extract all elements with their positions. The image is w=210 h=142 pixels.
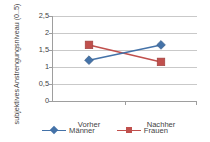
y-tick-label-2: 2 bbox=[45, 29, 49, 37]
square-marker-icon bbox=[126, 127, 132, 133]
y-tick-label-0: 0 bbox=[45, 97, 49, 105]
y-tick-label-0.5: 0,5 bbox=[39, 80, 49, 88]
series-layer bbox=[53, 16, 197, 101]
y-tick-label-1: 1 bbox=[45, 63, 49, 71]
legend-label-maenner: Männer bbox=[69, 126, 95, 135]
x-tick-mark-mid bbox=[125, 101, 126, 105]
plot-area: 2,5 2 1,5 1 0,5 0 Vorher Nachher bbox=[53, 16, 197, 101]
chart-legend: Männer Frauen bbox=[0, 122, 210, 138]
y-axis-title: subjektives Anstrengungsniveau (0..5) bbox=[0, 16, 34, 112]
y-tick-label-1.5: 1,5 bbox=[39, 46, 49, 54]
y-tick-label-2.5: 2,5 bbox=[39, 12, 49, 20]
chart-container: subjektives Anstrengungsniveau (0..5) 2,… bbox=[0, 0, 210, 142]
data-point-frauen-nachher bbox=[157, 58, 165, 66]
x-tick-mark-end bbox=[196, 101, 197, 105]
data-point-frauen-vorher bbox=[85, 41, 93, 49]
data-point-maenner-vorher bbox=[85, 56, 94, 65]
y-tick-mark-0 bbox=[49, 101, 53, 102]
legend-item-maenner[interactable]: Männer bbox=[42, 126, 95, 135]
legend-item-frauen[interactable]: Frauen bbox=[117, 126, 168, 135]
diamond-marker-icon bbox=[50, 125, 58, 133]
data-point-maenner-nachher bbox=[157, 41, 166, 50]
y-axis-title-line-2: Anstrengungsniveau (0..5) bbox=[13, 4, 21, 88]
y-axis-title-line-1: subjektives bbox=[13, 89, 21, 125]
legend-label-frauen: Frauen bbox=[144, 126, 168, 135]
legend-key-frauen bbox=[117, 126, 141, 135]
legend-key-maenner bbox=[42, 126, 66, 135]
